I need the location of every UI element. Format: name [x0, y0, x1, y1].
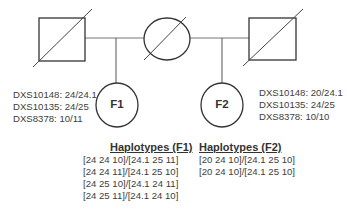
f2-marker: DXS10148: 20/24.1 [259, 87, 343, 99]
child-f2-label: F2 [202, 98, 242, 110]
f1-marker: DXS10135: 24/25 [13, 101, 97, 113]
haplotype-row: [24 24 10]/[24.1 25 11] [83, 154, 178, 166]
haplotype-row: [20 24 10]/[24.1 25 10] [199, 154, 295, 166]
f2-marker-list: DXS10148: 20/24.1 DXS10135: 24/25 DXS837… [259, 87, 343, 123]
f1-marker-list: DXS10148: 24/24.1 DXS10135: 24/25 DXS837… [13, 89, 97, 125]
haplotypes-f2-list: [20 24 10]/[24.1 25 10] [20 24 10]/[24.1… [199, 154, 295, 178]
haplotype-row: [20 24 10]/[24.1 25 10] [199, 166, 295, 178]
f1-marker: DXS10148: 24/24.1 [13, 89, 97, 101]
mother-symbol [144, 17, 190, 60]
child-f1-label: F1 [97, 98, 137, 110]
haplotypes-f1-list: [24 24 10]/[24.1 25 11] [24 24 11]/[24.1… [83, 154, 178, 202]
f2-marker: DXS10135: 24/25 [259, 99, 343, 111]
father-left-symbol [33, 9, 92, 67]
haplotypes-f1-title: Haplotypes (F1) [110, 141, 193, 153]
f2-marker: DXS8378: 10/10 [259, 111, 343, 123]
haplotypes-f2-title: Haplotypes (F2) [199, 141, 282, 153]
haplotype-row: [24 25 10]/[24.1 24 11] [83, 178, 178, 190]
f1-marker: DXS8378: 10/11 [13, 113, 97, 125]
haplotype-row: [24 25 11]/[24.1 24 10] [83, 190, 178, 202]
father-right-symbol [243, 9, 303, 66]
haplotype-row: [24 24 11]/[24.1 25 10] [83, 166, 178, 178]
